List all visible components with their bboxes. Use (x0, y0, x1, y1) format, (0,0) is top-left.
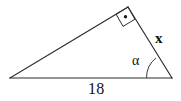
right-angle-marker (116, 7, 135, 26)
geometry-figure: x α 18 (0, 0, 181, 101)
right-angle-dot (124, 15, 127, 18)
label-angle-alpha: α (132, 54, 139, 68)
label-base-18: 18 (88, 81, 105, 97)
triangle-side-long (10, 7, 128, 78)
label-side-x: x (155, 31, 163, 46)
angle-arc-alpha (146, 58, 156, 78)
